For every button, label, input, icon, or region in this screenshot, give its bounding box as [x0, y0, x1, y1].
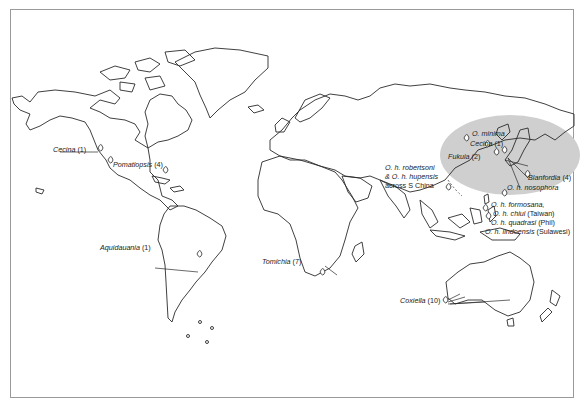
- snail-icon: [483, 205, 488, 212]
- label-o-h-chiui: O. h. chiui (Taiwan): [493, 210, 555, 218]
- snail-icon: [446, 184, 451, 191]
- label-blanfordia: Blanfordia (4): [528, 174, 571, 182]
- label-across-s-china: across S China: [385, 182, 434, 190]
- arctic-islands: [100, 50, 195, 92]
- label-o-h-quadrasi: O. h. quadrasi (Phil): [491, 219, 555, 227]
- south-america-outline: [158, 206, 226, 322]
- label-o-h-lindoensis: O. h. lindoensis (Sulawesi): [485, 228, 570, 236]
- label-tomichia: Tomichia (7): [262, 258, 301, 266]
- label-o-h-hupensis: & O. h. hupensis: [385, 173, 438, 181]
- label-coxiella: Coxiella (10): [400, 297, 440, 305]
- label-o-h-robertsoni: O. h. robertsoni: [385, 164, 435, 172]
- snail-icon: [443, 297, 448, 304]
- label-o-h-formosana: O. h. formosana,: [491, 201, 545, 209]
- snail-icon: [98, 145, 103, 152]
- label-o-h-nosophora: O. h. nosophora: [507, 184, 559, 192]
- label-aquidauania: Aquidauania (1): [100, 244, 151, 252]
- label-o-minima: O. minima: [472, 130, 505, 138]
- snail-icon: [197, 251, 202, 258]
- snail-icon: [163, 167, 168, 174]
- snail-icon: [320, 269, 325, 276]
- label-fukuia: Fukuia (2): [448, 153, 480, 161]
- label-pomatiopsis: Pomatiopsis (4): [113, 161, 163, 169]
- australia-outline: [446, 252, 534, 316]
- greenland-outline: [175, 48, 268, 118]
- label-cecina-na: Cecina (1): [53, 146, 86, 154]
- label-cecina-asia: Cecina (1): [470, 140, 503, 148]
